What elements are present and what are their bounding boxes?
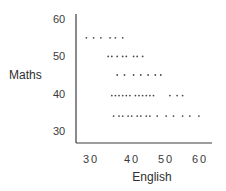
data-point xyxy=(198,115,200,117)
data-point xyxy=(156,115,158,117)
data-point xyxy=(86,37,88,39)
data-point xyxy=(115,37,117,39)
data-point xyxy=(122,115,124,117)
data-point xyxy=(165,115,167,117)
data-point xyxy=(122,95,124,97)
data-point xyxy=(122,37,124,39)
data-point xyxy=(189,115,191,117)
data-point xyxy=(129,95,131,97)
data-point xyxy=(149,115,151,117)
data-point xyxy=(140,115,142,117)
x-tick-label-50: 50 xyxy=(158,153,174,165)
data-point xyxy=(111,56,113,58)
data-point xyxy=(154,74,156,76)
scatter-chart: 60 50 40 30 Maths 30 40 50 60 English xyxy=(0,0,226,191)
data-point xyxy=(182,95,184,97)
data-point xyxy=(133,56,135,58)
data-point xyxy=(145,115,147,117)
x-tick-label-60: 60 xyxy=(192,153,208,165)
data-point xyxy=(138,95,140,97)
data-point xyxy=(136,115,138,117)
data-point xyxy=(125,56,127,58)
data-point xyxy=(122,56,124,58)
x-tick-label-30: 30 xyxy=(83,153,99,165)
data-point xyxy=(153,95,155,97)
data-point xyxy=(109,37,111,39)
data-point xyxy=(145,95,147,97)
x-axis-title: English xyxy=(132,170,171,184)
data-point xyxy=(135,95,137,97)
data-point xyxy=(125,95,127,97)
data-point xyxy=(176,95,178,97)
data-point xyxy=(140,74,142,76)
y-tick-label-30: 30 xyxy=(53,125,65,137)
data-point xyxy=(149,95,151,97)
y-tick-label-60: 60 xyxy=(53,13,65,25)
data-point xyxy=(142,95,144,97)
data-point xyxy=(182,115,184,117)
data-point xyxy=(93,37,95,39)
data-point xyxy=(127,115,129,117)
data-point xyxy=(133,74,135,76)
data-point xyxy=(147,74,149,76)
data-point xyxy=(113,115,115,117)
data-point xyxy=(116,56,118,58)
x-tick-label-40: 40 xyxy=(124,153,140,165)
data-point xyxy=(160,74,162,76)
data-point xyxy=(100,37,102,39)
data-point xyxy=(116,74,118,76)
data-point xyxy=(131,115,133,117)
data-point xyxy=(169,95,171,97)
y-tick-label-40: 40 xyxy=(53,88,65,100)
data-point xyxy=(107,56,109,58)
data-point xyxy=(115,95,117,97)
data-point xyxy=(118,115,120,117)
y-tick-label-50: 50 xyxy=(53,50,65,62)
y-axis-title: Maths xyxy=(9,68,42,82)
data-point xyxy=(124,74,126,76)
data-point xyxy=(111,95,113,97)
data-points xyxy=(86,37,200,117)
data-point xyxy=(136,56,138,58)
data-point xyxy=(173,115,175,117)
data-point xyxy=(118,95,120,97)
data-point xyxy=(142,56,144,58)
